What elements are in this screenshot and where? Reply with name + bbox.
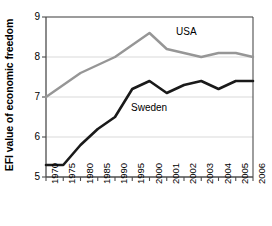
chart-plot-area	[0, 0, 272, 226]
axis-ticks	[42, 17, 253, 181]
grid-lines	[46, 17, 253, 137]
chart-figure: EFI value of economic freedom 56789 1970…	[0, 0, 272, 226]
data-series	[46, 33, 253, 165]
series-line-sweden	[46, 81, 253, 165]
series-annotation-usa: USA	[176, 27, 197, 37]
series-annotation-sweden: Sweden	[131, 103, 167, 113]
